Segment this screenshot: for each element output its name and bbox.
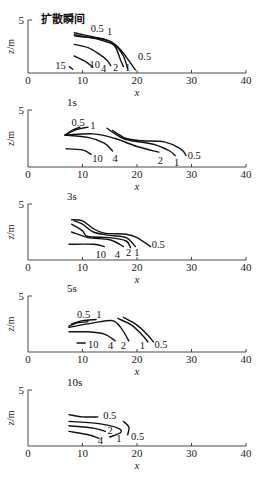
contour-label: 2 (121, 340, 126, 351)
x-axis-label: x (134, 273, 140, 285)
contour-label: 0.5 (72, 117, 85, 128)
panel-title: 10s (67, 376, 82, 388)
y-tick-label: 5 (19, 198, 25, 210)
x-tick-label: 10 (77, 353, 89, 365)
x-tick-label: 40 (241, 447, 253, 459)
x-axis-label: x (134, 86, 140, 98)
panel-4: 0102030405z/mx10s0.50.5214 (5, 376, 252, 471)
x-tick-label: 0 (25, 447, 31, 459)
contour-label: 1 (174, 157, 179, 168)
y-axis-label: z/m (5, 316, 16, 331)
contour-label: 1 (90, 120, 95, 131)
contour-label: 15 (55, 60, 66, 71)
x-tick-label: 20 (132, 168, 144, 180)
panel-1: 0102030405z/mx1s0.510.512410 (5, 96, 252, 192)
panel-3: 0102030405z/mx5s0.510.512410 (5, 282, 252, 377)
x-tick-label: 40 (241, 353, 253, 365)
x-tick-label: 0 (25, 353, 31, 365)
x-tick-label: 30 (186, 447, 198, 459)
contour-line (69, 320, 129, 340)
x-tick-label: 10 (77, 447, 89, 459)
x-tick-label: 30 (186, 353, 198, 365)
contour-label: 2 (108, 425, 113, 436)
x-axis-label: x (134, 459, 140, 471)
contour-label: 1 (140, 340, 145, 351)
x-axis-label: x (134, 365, 140, 377)
panel-2: 0102030405z/mx3s0.512410 (5, 190, 252, 285)
x-tick-label: 20 (132, 74, 144, 86)
contour-label: 1 (116, 433, 121, 444)
x-tick-label: 40 (241, 168, 253, 180)
contour-line (69, 244, 104, 246)
x-tick-label: 40 (241, 261, 253, 273)
contour-label: 0.5 (91, 23, 104, 34)
x-axis-label: x (134, 180, 140, 192)
y-tick-label: 5 (19, 290, 25, 302)
contour-label: 0.5 (103, 410, 116, 421)
contour-line (69, 431, 99, 438)
contour-label: 4 (112, 153, 118, 164)
contour-line (69, 415, 98, 417)
x-tick-label: 30 (186, 261, 198, 273)
contour-label: 1 (125, 62, 130, 73)
x-tick-label: 10 (77, 261, 89, 273)
y-axis-label: z/m (5, 131, 16, 146)
y-tick-label: 5 (19, 104, 25, 116)
panel-0: 0102030405z/mx扩散瞬间0.510.51241015 (5, 12, 252, 98)
contour-label: 10 (88, 339, 99, 350)
x-tick-label: 40 (241, 74, 253, 86)
contour-label: 2 (158, 155, 163, 166)
y-tick-label: 5 (19, 384, 25, 396)
contour-label: 1 (107, 26, 112, 37)
x-tick-label: 30 (186, 168, 198, 180)
contour-label: 2 (126, 247, 131, 258)
contour-line (66, 149, 91, 155)
contour-label: 4 (98, 435, 104, 446)
panel-title: 3s (67, 190, 77, 202)
x-tick-label: 20 (132, 447, 144, 459)
axes (28, 110, 246, 167)
figure: 0102030405z/mx扩散瞬间0.510.5124101501020304… (0, 0, 263, 479)
x-tick-label: 0 (25, 168, 31, 180)
contour-label: 1 (134, 247, 139, 258)
contour-label: 4 (108, 340, 114, 351)
contour-line (69, 421, 121, 437)
contour-label: 0.5 (138, 51, 151, 62)
panel-title: 5s (67, 282, 77, 294)
contour-label: 4 (115, 249, 121, 260)
x-tick-label: 0 (25, 74, 31, 86)
contour-label: 1 (96, 309, 101, 320)
y-axis-label: z/m (5, 39, 16, 54)
x-tick-label: 30 (186, 74, 198, 86)
x-tick-label: 20 (132, 261, 144, 273)
contour-line (69, 67, 72, 70)
contour-label: 10 (96, 249, 107, 260)
contour-label: 0.5 (77, 309, 90, 320)
y-tick-label: 5 (19, 14, 25, 26)
x-tick-label: 10 (77, 74, 89, 86)
contour-label: 4 (101, 63, 107, 74)
x-tick-label: 0 (25, 261, 31, 273)
y-axis-label: z/m (5, 224, 16, 239)
contour-label: 2 (113, 62, 118, 73)
panel-title: 扩散瞬间 (41, 12, 85, 26)
x-tick-label: 20 (132, 353, 144, 365)
contour-line (123, 421, 129, 434)
contour-label: 0.5 (152, 239, 165, 250)
y-axis-label: z/m (5, 410, 16, 425)
panel-title: 1s (67, 96, 77, 108)
contour-label: 0.5 (131, 431, 144, 442)
x-tick-label: 10 (77, 168, 89, 180)
contour-label: 10 (90, 59, 101, 70)
contour-line (69, 426, 106, 432)
axes (28, 296, 246, 352)
contour-label: 0.5 (154, 339, 167, 350)
contour-label: 10 (92, 153, 103, 164)
contour-label: 0.5 (188, 150, 201, 161)
